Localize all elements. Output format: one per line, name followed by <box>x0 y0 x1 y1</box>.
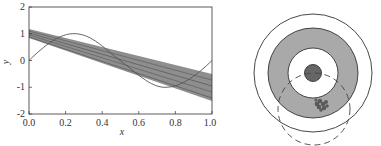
y-tick: 1 <box>20 28 25 39</box>
x-tick: 0.8 <box>169 117 182 128</box>
x-tick: 1.0 <box>204 117 217 128</box>
target-diagram <box>254 14 372 145</box>
line-plot: 0.0 0.2 0.4 0.6 0.8 1.0 2 1 0 -1 -2 x y <box>0 1 216 137</box>
x-tick: 0.6 <box>133 117 146 128</box>
y-tick: 2 <box>20 1 25 12</box>
x-tick: 0.2 <box>59 117 72 128</box>
y-tick: 0 <box>20 55 25 66</box>
y-axis-label: y <box>0 59 11 65</box>
x-axis-label: x <box>119 126 125 137</box>
x-tick: 0.4 <box>96 117 109 128</box>
y-tick-labels: 2 1 0 -1 -2 <box>17 1 25 119</box>
y-tick: -1 <box>17 81 25 92</box>
fitted-lines-band <box>29 29 212 101</box>
figure: 0.0 0.2 0.4 0.6 0.8 1.0 2 1 0 -1 -2 x y <box>0 0 381 146</box>
y-tick: -2 <box>17 108 25 119</box>
